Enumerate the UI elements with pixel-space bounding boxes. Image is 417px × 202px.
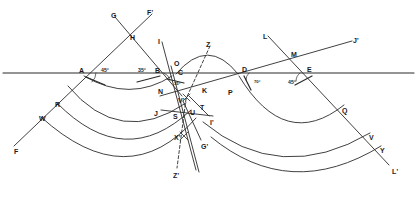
ray-g-n [115, 17, 182, 96]
point-label-G-prime: G' [201, 143, 208, 150]
point-label-P: P [228, 89, 233, 96]
point-label-L-prime: L' [392, 168, 398, 175]
angle-label-E: 45° [288, 80, 296, 85]
point-label-Q: Q [342, 107, 348, 114]
point-label-V-prime: V' [178, 97, 185, 104]
point-label-X-prime: X' [174, 134, 181, 141]
point-label-H: H [130, 34, 135, 41]
point-label-O: O [174, 60, 180, 67]
point-label-Z-prime: Z' [173, 172, 179, 179]
point-label-W: W [39, 115, 46, 122]
point-label-T: T [200, 104, 204, 111]
point-label-E: E [307, 66, 312, 73]
point-label-C: C [178, 69, 183, 76]
point-label-Z: Z [206, 41, 210, 48]
tick-B [137, 76, 160, 82]
ray-jprime [160, 41, 352, 96]
angle-label-D: 70° [254, 80, 260, 84]
point-label-F: F [14, 148, 18, 155]
point-label-J: J [154, 110, 158, 117]
angle-label-C: 35° [174, 82, 180, 86]
point-label-L: L [263, 33, 267, 40]
angle-label-B: 35° [138, 68, 146, 73]
tick-A [86, 77, 105, 85]
point-label-R: R [55, 101, 60, 108]
point-label-Y: Y [380, 147, 385, 154]
point-label-F-prime: F' [147, 9, 153, 16]
arc-right-outer [211, 137, 381, 172]
tick-D [244, 76, 251, 90]
point-label-I-prime: I' [210, 119, 214, 126]
point-label-I: I [158, 38, 160, 45]
point-label-K: K [202, 87, 207, 94]
angle-arc-E [296, 73, 300, 81]
ray-l-lprime [268, 36, 389, 165]
point-label-M: M [291, 51, 297, 58]
arc-crest-cd [176, 55, 238, 74]
point-label-U: U [190, 109, 195, 116]
point-label-S: S [173, 113, 178, 120]
point-label-A: A [79, 67, 84, 74]
point-label-D: D [242, 66, 247, 73]
angle-arc-D [246, 73, 249, 80]
point-label-B: B [155, 67, 160, 74]
arc-right-middle [203, 122, 370, 157]
arc-inner-left [68, 86, 186, 122]
point-label-G: G [111, 12, 117, 19]
point-label-V: V [369, 134, 374, 141]
diagram-vector-layer [0, 0, 417, 202]
point-label-N: N [158, 88, 163, 95]
arc-outer-left [41, 117, 196, 157]
angle-label-A: 45° [101, 68, 109, 73]
point-label-J-prime: J' [353, 37, 359, 44]
diagram-canvas: A B C D E G F' H I Z L M J' O N K P V' T… [0, 0, 417, 202]
